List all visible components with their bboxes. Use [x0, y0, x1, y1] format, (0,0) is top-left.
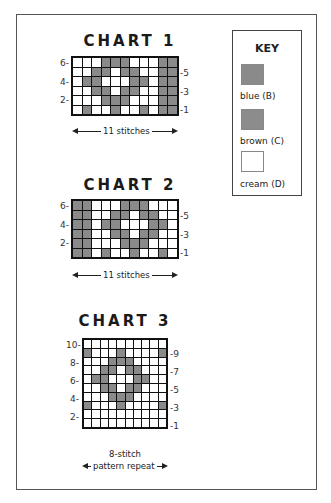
chart-2-row-label-2: 2- [60, 238, 69, 248]
chart-cell [168, 211, 177, 220]
chart-cell [83, 58, 92, 67]
chart-cell [134, 358, 141, 366]
chart-cell [168, 68, 177, 77]
chart-cell [126, 384, 133, 392]
chart-cell [130, 249, 139, 258]
chart-cell [159, 220, 168, 229]
chart-cell [102, 106, 111, 115]
chart-3-row-label-1: -1 [170, 421, 179, 431]
chart-cell [109, 366, 116, 374]
chart-cell [92, 349, 99, 357]
chart-3-repeat-arrow: pattern repeat [82, 461, 168, 471]
chart-cell [130, 239, 139, 248]
chart-cell [92, 201, 101, 210]
chart-cell [92, 220, 101, 229]
chart-cell [168, 249, 177, 258]
chart-cell [142, 375, 149, 383]
chart-cell [130, 201, 139, 210]
chart-cell [168, 239, 177, 248]
chart-cell [168, 58, 177, 67]
chart-cell [111, 87, 120, 96]
chart-cell [150, 349, 157, 357]
chart-3-row-label-7: -7 [170, 367, 179, 377]
chart-2-row-label-4: 4- [60, 220, 69, 230]
chart-cell [102, 96, 111, 105]
chart-cell [159, 239, 168, 248]
chart-cell [102, 58, 111, 67]
chart-cell [92, 358, 99, 366]
chart-cell [117, 384, 124, 392]
color-key: KEY blue (B) brown (C) cream (D) [232, 30, 302, 196]
chart-2-title: CHART 2 [60, 176, 200, 194]
chart-cell [149, 249, 158, 258]
chart-cell [142, 393, 149, 401]
chart-cell [92, 106, 101, 115]
chart-cell [84, 375, 91, 383]
chart-cell [73, 220, 82, 229]
chart-cell [159, 230, 168, 239]
chart-cell [126, 419, 133, 427]
chart-cell [101, 340, 108, 348]
chart-cell [134, 340, 141, 348]
chart-cell [84, 410, 91, 418]
chart-3-repeat-label-line1: 8-stitch [85, 449, 165, 460]
chart-cell [117, 393, 124, 401]
chart-cell [111, 106, 120, 115]
chart-cell [130, 211, 139, 220]
chart-cell [101, 375, 108, 383]
chart-cell [159, 375, 166, 383]
chart-cell [149, 230, 158, 239]
chart-cell [149, 106, 158, 115]
chart-cell [109, 375, 116, 383]
chart-cell [101, 410, 108, 418]
chart-cell [102, 211, 111, 220]
chart-cell [73, 201, 82, 210]
chart-cell [130, 58, 139, 67]
chart-cell [150, 340, 157, 348]
chart-cell [117, 358, 124, 366]
chart-cell [117, 349, 124, 357]
chart-cell [159, 366, 166, 374]
chart-cell [101, 384, 108, 392]
chart-1-row-label-1: -1 [180, 105, 189, 115]
chart-3-row-label-6: 6- [70, 376, 79, 386]
chart-cell [111, 96, 120, 105]
chart-cell [168, 96, 177, 105]
chart-cell [84, 419, 91, 427]
chart-cell [142, 384, 149, 392]
chart-cell [126, 340, 133, 348]
chart-cell [121, 220, 130, 229]
chart-cell [168, 220, 177, 229]
chart-cell [83, 249, 92, 258]
chart-cell [134, 419, 141, 427]
chart-cell [83, 220, 92, 229]
chart-cell [140, 249, 149, 258]
chart-2-width-label: 11 stitches [101, 270, 152, 280]
key-title: KEY [233, 42, 301, 55]
chart-cell [111, 77, 120, 86]
chart-cell [130, 96, 139, 105]
chart-cell [142, 410, 149, 418]
chart-cell [126, 375, 133, 383]
chart-2-row-label-3: -3 [180, 230, 189, 240]
chart-cell [126, 410, 133, 418]
chart-1-row-label-2: 2- [60, 95, 69, 105]
chart-cell [159, 68, 168, 77]
chart-cell [102, 220, 111, 229]
chart-cell [142, 366, 149, 374]
chart-cell [134, 410, 141, 418]
key-swatch-cream [241, 151, 264, 172]
chart-1-row-label-4: 4- [60, 77, 69, 87]
chart-cell [130, 106, 139, 115]
chart-cell [159, 349, 166, 357]
chart-cell [83, 239, 92, 248]
chart-cell [142, 402, 149, 410]
chart-cell [121, 106, 130, 115]
chart-1-row-label-5: -5 [180, 68, 189, 78]
chart-cell [117, 366, 124, 374]
chart-cell [83, 230, 92, 239]
chart-3-title: CHART 3 [55, 312, 195, 330]
chart-cell [101, 393, 108, 401]
chart-cell [140, 96, 149, 105]
chart-cell [92, 375, 99, 383]
